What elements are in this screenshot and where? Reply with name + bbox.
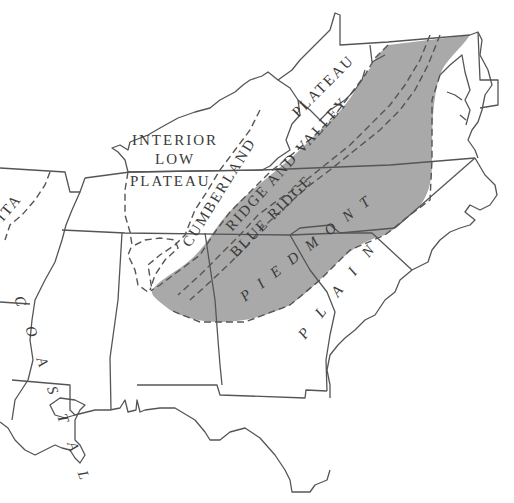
label-ouachita-fragment: ITA: [0, 191, 24, 224]
label-coastal: COASTAL: [11, 294, 100, 503]
gulf-coastline: [0, 398, 330, 492]
label-interior: INTERIOR: [132, 132, 218, 148]
interior-low-plateau-west-boundary: [125, 172, 152, 292]
label-plateau-interior: PLATEAU: [130, 173, 211, 189]
arkansas-north-boundary: [0, 168, 85, 192]
alabama-florida-boundary: [137, 385, 327, 398]
label-low: LOW: [155, 151, 195, 167]
mississippi-alabama-boundary: [110, 233, 122, 410]
kentucky-boundary: [112, 72, 300, 172]
physiographic-map: INTERIOR LOW PLATEAU CUMBERLAND PLATEAU …: [0, 0, 514, 503]
